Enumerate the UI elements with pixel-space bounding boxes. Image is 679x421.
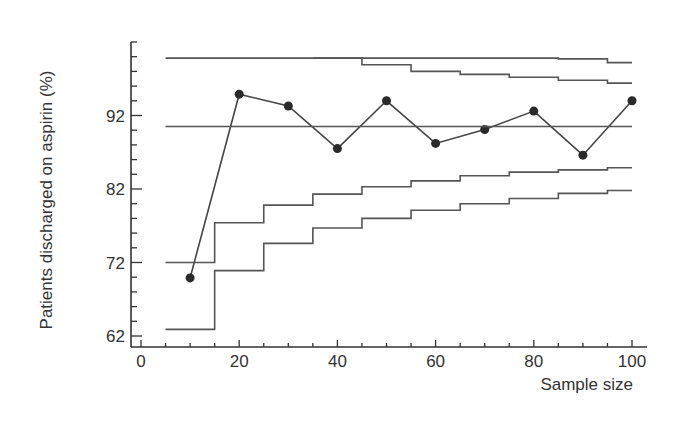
data-point-marker	[333, 144, 342, 153]
x-axis-title: Sample size	[540, 375, 633, 394]
data-point-marker	[235, 90, 244, 99]
control-chart: 62728292 020406080100 Sample size Patien…	[0, 0, 679, 421]
data-point-marker	[284, 101, 293, 110]
lower-outer-limit-line	[166, 190, 632, 329]
y-axis-ticks: 62728292	[106, 42, 142, 346]
axes: 62728292 020406080100	[106, 42, 647, 371]
upper-inner-limit-line	[313, 58, 632, 83]
data-point-marker	[578, 151, 587, 160]
data-point-marker	[628, 96, 637, 105]
data-point-marker	[431, 139, 440, 148]
y-tick-label: 62	[106, 327, 125, 346]
y-tick-label: 72	[106, 254, 125, 273]
y-tick-label: 82	[106, 180, 125, 199]
data-point-marker	[186, 273, 195, 282]
y-axis-title: Patients discharged on aspirin (%)	[37, 71, 56, 330]
x-tick-label: 80	[524, 352, 543, 371]
x-tick-label: 0	[136, 352, 145, 371]
data-point-marker	[529, 107, 538, 116]
x-tick-label: 60	[426, 352, 445, 371]
x-axis-ticks: 020406080100	[136, 340, 646, 371]
data-point-marker	[382, 96, 391, 105]
lower-inner-limit-line	[166, 168, 632, 263]
x-tick-label: 40	[328, 352, 347, 371]
x-tick-label: 100	[618, 352, 646, 371]
x-tick-label: 20	[230, 352, 249, 371]
upper-outer-limit-line	[166, 58, 632, 62]
plot-area	[166, 58, 637, 329]
y-tick-label: 92	[106, 107, 125, 126]
